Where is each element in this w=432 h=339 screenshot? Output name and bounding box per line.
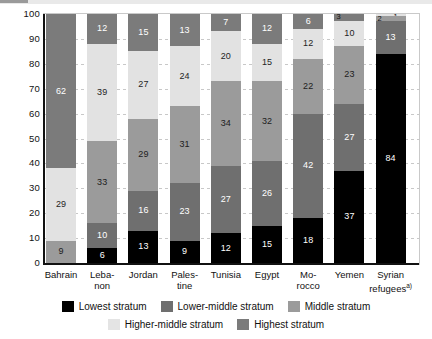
legend-item-highest[interactable]: Highest stratum [237, 319, 324, 330]
y-axis-tick-label: 20 [2, 208, 40, 218]
bar-segment[interactable]: 84 [376, 54, 406, 263]
bar-segment[interactable]: 27 [128, 51, 158, 118]
bar-segment[interactable]: 62 [46, 14, 76, 168]
bar-segment[interactable]: 10 [87, 223, 117, 248]
bar-segment-value: 9 [58, 247, 63, 256]
bar-segment[interactable]: 13 [376, 21, 406, 53]
x-axis-label-line: tine [158, 280, 212, 291]
legend-row: Higher-middle stratumHighest stratum [0, 315, 432, 333]
bar-segment-value: 29 [138, 150, 148, 159]
bar-segment-value: 20 [221, 52, 231, 61]
bar-segment[interactable]: 32 [252, 81, 282, 161]
bar-segment[interactable]: 39 [87, 44, 117, 141]
bar-segment[interactable]: 7 [211, 14, 241, 31]
chart-legend: Lowest stratumLower-middle stratumMiddle… [0, 297, 432, 337]
bar-segment[interactable]: 16 [128, 191, 158, 231]
bar-segment-value: 10 [344, 29, 354, 38]
bar-segment[interactable]: 24 [170, 46, 200, 106]
bar-segment-value: 6 [100, 251, 105, 260]
scan-edge-artifact-dark [0, 0, 28, 3]
bar-column[interactable]: 1215322615 [252, 14, 282, 263]
bar-group: 6229912393310615272916131324312397203427… [45, 14, 419, 263]
bar-segment[interactable]: 18 [293, 218, 323, 263]
y-axis-tick-label: 30 [2, 183, 40, 193]
bar-column[interactable]: 123933106 [87, 14, 117, 263]
legend-item-lowest[interactable]: Lowest stratum [62, 301, 147, 312]
bar-segment[interactable]: 15 [252, 226, 282, 263]
legend-row: Lowest stratumLower-middle stratumMiddle… [0, 297, 432, 315]
bar-segment[interactable]: 42 [293, 114, 323, 219]
x-axis-labels: BahrainLeba-nonJordanPales-tineTunisiaEg… [45, 269, 419, 295]
bar-segment-value: 23 [179, 207, 189, 216]
bar-segment[interactable]: 26 [252, 161, 282, 226]
legend-swatch-icon [161, 301, 173, 312]
bar-segment[interactable]: 13 [128, 231, 158, 263]
x-axis-category-label: Syrianrefugeesa) [364, 269, 418, 294]
bar-column[interactable]: 132431239 [170, 14, 200, 263]
bar-segment[interactable]: 33 [87, 141, 117, 223]
legend-item-middle[interactable]: Middle stratum [288, 301, 371, 312]
bar-segment[interactable]: 12 [87, 14, 117, 44]
bar-segment[interactable]: 23 [170, 183, 200, 240]
bar-segment-value: 7 [223, 18, 228, 27]
bar-segment[interactable]: 29 [128, 119, 158, 191]
bar-segment-value: 12 [303, 39, 313, 48]
x-axis-label-line: non [75, 280, 129, 291]
bar-segment[interactable]: 6 [293, 14, 323, 29]
bar-segment-value: 22 [303, 82, 313, 91]
bar-segment-value: 10 [97, 231, 107, 240]
bar-segment[interactable]: 15 [252, 44, 282, 81]
bar-segment-value: 33 [97, 178, 107, 187]
bar-segment-value: 31 [179, 140, 189, 149]
bar-segment[interactable]: 27 [211, 166, 241, 233]
bar-segment[interactable]: 9 [170, 241, 200, 263]
bar-segment[interactable]: 20 [211, 31, 241, 81]
bar-segment-value: 34 [221, 119, 231, 128]
bar-segment[interactable]: 12 [252, 14, 282, 44]
bar-segment[interactable]: 9 [46, 241, 76, 263]
bar-segment[interactable]: 3 [334, 14, 364, 21]
bar-segment[interactable]: 29 [46, 168, 76, 240]
bar-segment-value: 13 [138, 242, 148, 251]
bar-segment-value: 42 [303, 161, 313, 170]
legend-item-higher-middle[interactable]: Higher-middle stratum [108, 319, 223, 330]
bar-segment-value: 37 [344, 212, 354, 221]
bar-segment[interactable]: 34 [211, 81, 241, 166]
bar-segment-value: 29 [56, 200, 66, 209]
bar-segment[interactable]: 10 [334, 21, 364, 46]
bar-segment[interactable]: 12 [293, 29, 323, 59]
bar-segment[interactable]: 27 [334, 104, 364, 171]
bar-segment-value: 12 [97, 24, 107, 33]
stacked-bar-chart: 0102030405060708090100 62299123933106152… [0, 0, 432, 339]
bar-segment-value: 27 [221, 195, 231, 204]
bar-segment[interactable]: 15 [128, 14, 158, 51]
bar-segment-value: 12 [221, 244, 231, 253]
bar-segment-value: 6 [306, 17, 311, 26]
bar-segment[interactable]: 22 [293, 59, 323, 114]
x-axis-label-line: refugeesa) [364, 280, 418, 294]
bar-column[interactable]: 1527291613 [128, 14, 158, 263]
bar-segment-value: 3 [336, 13, 340, 21]
bar-segment-value: 15 [262, 58, 272, 67]
bar-segment[interactable]: 23 [334, 46, 364, 103]
bar-segment-value: 16 [138, 206, 148, 215]
y-axis-tick-label: 60 [2, 109, 40, 119]
bar-segment[interactable]: 31 [170, 106, 200, 183]
bar-column[interactable]: 310232737 [334, 14, 364, 263]
bar-segment-value: 84 [385, 154, 395, 163]
bar-segment[interactable]: 37 [334, 171, 364, 263]
bar-segment-value: 23 [344, 70, 354, 79]
bar-column[interactable]: 62299 [46, 14, 76, 263]
bar-segment[interactable]: 13 [170, 14, 200, 46]
bar-segment-value: 24 [179, 72, 189, 81]
bar-segment-value: 13 [179, 26, 189, 35]
bar-column[interactable]: 612224218 [293, 14, 323, 263]
x-axis-label-line: Syrian [364, 269, 418, 280]
bar-segment[interactable]: 6 [87, 248, 117, 263]
bar-column[interactable]: 121384 [376, 14, 406, 263]
plot-frame-right [419, 13, 420, 265]
legend-swatch-icon [288, 301, 300, 312]
bar-segment[interactable]: 12 [211, 233, 241, 263]
bar-column[interactable]: 720342712 [211, 14, 241, 263]
legend-item-lower-middle[interactable]: Lower-middle stratum [161, 301, 274, 312]
